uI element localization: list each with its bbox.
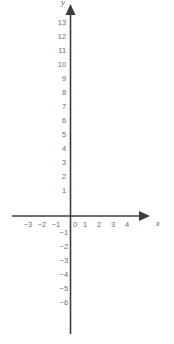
y-tick-label: 13	[58, 18, 66, 27]
y-tick-label: 1	[62, 186, 66, 195]
y-axis-arrow-icon	[66, 4, 76, 15]
y-tick-label: −5	[60, 284, 68, 293]
coordinate-plane: x y 13 12 11 10 9 8 7 6 5 4 3 2 1 0 −1 −…	[0, 0, 174, 344]
y-tick-label: 3	[62, 158, 66, 167]
y-tick-label: −6	[60, 298, 68, 307]
x-tick-label: 3	[111, 220, 115, 229]
y-tick-label: 7	[62, 102, 66, 111]
y-tick-label: 12	[58, 32, 66, 41]
y-tick-label: 5	[62, 130, 66, 139]
x-tick-label: 2	[97, 220, 101, 229]
x-tick-label: −1	[52, 220, 60, 229]
origin-label: 0	[73, 220, 77, 229]
y-tick-label: 2	[62, 172, 66, 181]
x-tick-label: −3	[24, 220, 32, 229]
x-axis-label: x	[155, 218, 160, 228]
x-tick-label: 1	[83, 220, 87, 229]
x-tick-label: −2	[38, 220, 46, 229]
y-tick-label: 10	[58, 60, 66, 69]
y-tick-label: −2	[60, 242, 68, 251]
y-tick-label: 9	[62, 74, 66, 83]
x-axis-arrow-icon	[139, 211, 150, 221]
y-tick-label: −1	[60, 228, 68, 237]
x-tick-label: 4	[125, 220, 129, 229]
y-tick-label: 8	[62, 88, 66, 97]
y-tick-label: −4	[60, 270, 68, 279]
y-tick-label: 4	[62, 144, 66, 153]
y-tick-label: 11	[58, 46, 66, 55]
y-axis-label: y	[60, 0, 65, 7]
y-tick-label: 6	[62, 116, 66, 125]
y-tick-label: −3	[60, 256, 68, 265]
